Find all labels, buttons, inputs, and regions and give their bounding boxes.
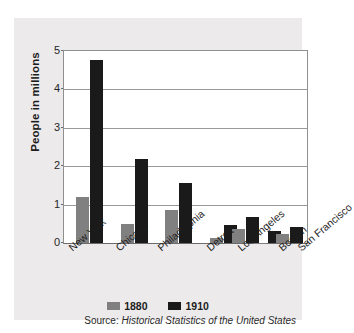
- bar-group-new-york: [76, 51, 103, 243]
- legend-label-1910: 1910: [185, 300, 208, 312]
- bar-group-philadelphia: [165, 51, 192, 243]
- chart-legend: 1880 1910: [14, 299, 302, 312]
- chart-panel: People in millions 5 4 3 2 1 0: [14, 18, 302, 320]
- legend-label-1880: 1880: [124, 300, 147, 312]
- source-title: Historical Statistics of the United Stat…: [121, 315, 296, 326]
- legend-item-1910: 1910: [168, 299, 208, 312]
- y-tick-label-2: 2: [42, 160, 60, 171]
- bar-group-boston: [232, 51, 259, 243]
- chart-figure: People in millions 5 4 3 2 1 0: [0, 0, 314, 333]
- source-prefix: Source:: [84, 315, 118, 326]
- x-axis-labels: New York Chicago Philadelphia Detroit Lo…: [63, 244, 308, 304]
- y-axis: 5 4 3 2 1 0: [36, 18, 60, 333]
- legend-item-1880: 1880: [107, 299, 147, 312]
- legend-swatch-1880: [107, 302, 120, 310]
- legend-swatch-1910: [168, 302, 181, 310]
- y-tick-label-0: 0: [42, 237, 60, 248]
- bar-1910-new-york: [90, 60, 103, 243]
- y-tick-label-5: 5: [42, 45, 60, 56]
- y-tick-label-4: 4: [42, 83, 60, 94]
- bar-group-chicago: [121, 51, 148, 243]
- y-tick-label-1: 1: [42, 199, 60, 210]
- y-tick-label-3: 3: [42, 122, 60, 133]
- source-note: Source: Historical Statistics of the Uni…: [14, 315, 296, 326]
